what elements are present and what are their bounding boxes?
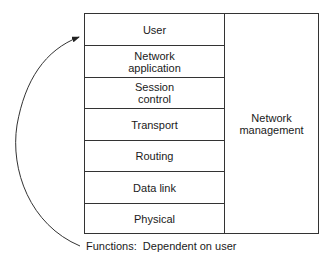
network-management-box: Network management xyxy=(224,13,319,234)
layer-label: Session control xyxy=(135,81,174,105)
network-architecture-diagram: User Network application Session control… xyxy=(0,0,336,255)
layer-label: Network application xyxy=(128,50,181,74)
layer-label: Routing xyxy=(136,150,174,162)
layer-physical: Physical xyxy=(85,204,224,233)
layer-user: User xyxy=(85,14,224,46)
layer-label: User xyxy=(143,24,166,36)
layer-network-application: Network application xyxy=(85,46,224,78)
layer-label: Physical xyxy=(134,213,175,225)
layer-routing: Routing xyxy=(85,141,224,172)
network-management-label: Network management xyxy=(239,112,303,136)
layer-label: Data link xyxy=(133,182,176,194)
layer-label: Transport xyxy=(131,119,178,131)
layer-data-link: Data link xyxy=(85,172,224,204)
functions-caption: Functions: Dependent on user xyxy=(86,240,236,253)
layer-transport: Transport xyxy=(85,109,224,141)
layer-session-control: Session control xyxy=(85,78,224,109)
protocol-layer-stack: User Network application Session control… xyxy=(84,13,224,234)
